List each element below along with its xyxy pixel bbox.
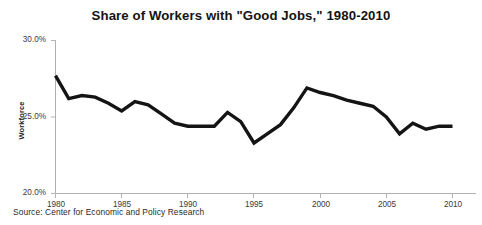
y-tick-label-25: 25.0%: [0, 112, 46, 121]
source-note: Source: Center for Economic and Policy R…: [13, 207, 204, 217]
plot-area: Workforce 30.0% 25.0% 20.0% 1980 1985 19…: [0, 28, 482, 200]
y-tick-label-20: 20.0%: [0, 188, 46, 197]
axis-lines: [56, 40, 477, 194]
x-tick-label-2000: 2000: [301, 200, 341, 209]
x-tick-label-1995: 1995: [234, 200, 274, 209]
plot-svg: [0, 28, 482, 200]
x-tick-label-2005: 2005: [367, 200, 407, 209]
y-tick-label-30: 30.0%: [0, 35, 46, 44]
data-line-series: [56, 76, 453, 143]
chart-figure: Share of Workers with "Good Jobs," 1980-…: [0, 0, 482, 225]
x-tick-label-2010: 2010: [433, 200, 473, 209]
x-tick-marks: [56, 194, 453, 199]
y-tick-marks: [51, 41, 56, 194]
page-title: Share of Workers with "Good Jobs," 1980-…: [0, 8, 482, 23]
